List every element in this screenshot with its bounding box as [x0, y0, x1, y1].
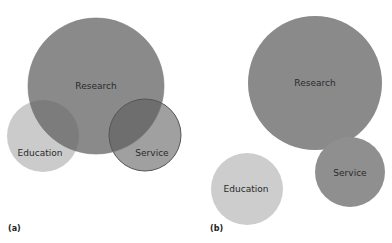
- panel-label-a: (a): [8, 224, 21, 233]
- research-label-a: Research: [75, 81, 116, 91]
- education-label-a: Education: [18, 148, 63, 158]
- panel-label-b: (b): [210, 224, 223, 233]
- panel-b: Research Education Service (b): [210, 16, 385, 233]
- panel-a: Research Education Service (a): [7, 18, 181, 233]
- research-label-b: Research: [294, 78, 335, 88]
- service-label-a: Service: [135, 148, 169, 158]
- education-label-b: Education: [224, 184, 269, 194]
- venn-diagram-figure: Research Education Service (a) Research …: [0, 0, 392, 243]
- service-label-b: Service: [333, 168, 367, 178]
